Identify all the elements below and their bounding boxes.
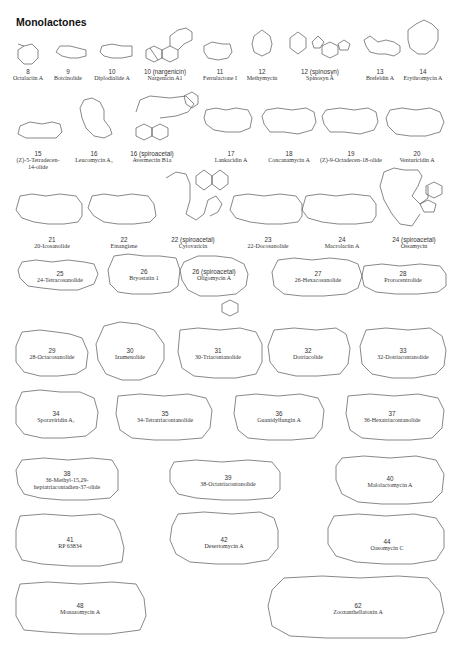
compound-number: 36 [257, 410, 301, 417]
compound-name-line1: (Z)-5-Tetradecen- [17, 157, 60, 164]
compound-name: 26-Hexacosanolide [295, 277, 341, 284]
compound-name: Monazomycin A [60, 609, 100, 616]
structure-24-spiroacetal [380, 168, 442, 226]
compound-label-33: 3332-Dotriacontanolide [377, 347, 428, 361]
structure-12-spinosyn [290, 32, 350, 58]
compound-name: Venturicidin A [399, 157, 434, 164]
compound-name: Izumenolide [115, 354, 145, 361]
compound-name: (Z)-9-Octadecen-18-olide [320, 157, 382, 164]
compound-label-15: 15(Z)-5-Tetradecen-14-olide [17, 150, 60, 171]
compound-number: 44 [371, 538, 404, 545]
compound-number: 16 (spiroacetal) [130, 150, 173, 157]
compound-name: Desertomycin A [204, 543, 243, 550]
compound-label-34: 34Sporaviridin A₁ [37, 410, 75, 424]
compound-label-35: 3534-Tetratriacontanolide [137, 410, 193, 424]
structure-17 [204, 108, 252, 132]
compound-number: 13 [366, 68, 394, 75]
compound-number: 26 [129, 268, 159, 275]
compound-name: Botcinolide [54, 75, 82, 82]
compound-name: RP 63834 [58, 543, 82, 550]
compound-name: Dotriacolide [293, 354, 323, 361]
compound-number: 40 [368, 475, 413, 482]
compound-name: Diplodialide A [94, 75, 130, 82]
compound-label-12-spinosyn: 12 (spinosyn)Spinosyn A [301, 68, 339, 82]
compound-number: 9 [54, 68, 82, 75]
compound-name: Prorocentrolide [384, 277, 421, 284]
compound-name: Octalactin A [13, 75, 43, 82]
compound-name: Concanamycin A [268, 157, 310, 164]
compound-label-14: 14Erythromycin A [404, 68, 443, 82]
compound-number: 24 [325, 236, 360, 243]
compound-name: Ossamycin [392, 243, 435, 250]
compound-name: 22-Docosanolide [248, 243, 289, 250]
structure-20 [386, 108, 444, 136]
compound-number: 31 [195, 347, 241, 354]
compound-label-10: 10Diplodialide A [94, 68, 130, 82]
compound-name: Sporaviridin A₁ [37, 417, 75, 424]
compound-name: 24-Tetracosanolide [37, 277, 83, 284]
compound-name: Leucomycin A₃ [75, 157, 113, 164]
compound-label-25: 2524-Tetracosanolide [37, 270, 83, 284]
compound-label-19: 19(Z)-9-Octadecen-18-olide [320, 150, 382, 164]
structure-14 [408, 20, 438, 54]
compound-name: Ferrulactone I [203, 75, 237, 82]
compound-number: 39 [200, 474, 255, 481]
compound-label-23: 2322-Docosanolide [248, 236, 289, 250]
compound-label-28: 28Prorocentrolide [384, 270, 421, 284]
compound-name: Lankacidin A [215, 157, 248, 164]
compound-label-24-spiroacetal: 24 (spiroacetal)Ossamycin [392, 236, 435, 250]
compound-name: 28-Octacosanolide [30, 354, 75, 361]
compound-number: 35 [137, 410, 193, 417]
compound-label-10-nargenicin: 10 (nargenicin)Nargenicin A1 [144, 68, 186, 82]
compound-label-12-methymycin: 12Methymycin [247, 68, 278, 82]
compound-label-41: 41RP 63834 [58, 536, 82, 550]
structure-8 [18, 44, 38, 64]
compound-number: 24 (spiroacetal) [392, 236, 435, 243]
compound-label-22: 22Etnangiene [111, 236, 138, 250]
compound-name: 38-Octatriacontanolide [200, 481, 255, 488]
compound-label-31: 3130-Triacontanolide [195, 347, 241, 361]
compound-number: 41 [58, 536, 82, 543]
compound-label-18: 18Concanamycin A [268, 150, 310, 164]
structure-18 [262, 108, 316, 134]
compound-label-22-spiroacetal: 22 (spiroacetal)Cytovaricin [171, 236, 214, 250]
compound-name: 30-Triacontanolide [195, 354, 241, 361]
structure-10-nargenicin [146, 28, 192, 62]
compound-label-42: 42Desertomycin A [204, 536, 243, 550]
compound-name-line1: 36-Methyl-15,29- [34, 477, 100, 484]
compound-label-40: 40Malolactomycin A [368, 475, 413, 489]
compound-name: Macrolactin A [325, 243, 360, 250]
compound-number: 25 [37, 270, 83, 277]
compound-number: 11 [203, 68, 237, 75]
compound-number: 12 [247, 68, 278, 75]
structure-22-spiroacetal [166, 170, 228, 220]
compound-name: Cytovaricin [171, 243, 214, 250]
compound-label-37: 3736-Hexatriacontanolide [364, 410, 421, 424]
compound-name: Zooxanthellatoxin A [333, 609, 383, 616]
compound-number: 30 [115, 347, 145, 354]
structure-16 [80, 98, 112, 138]
compound-name: 32-Dotriacontanolide [377, 354, 428, 361]
compound-number: 16 [75, 150, 113, 157]
compound-number: 12 (spinosyn) [301, 68, 339, 75]
structure-19 [322, 108, 378, 134]
compound-number: 37 [364, 410, 421, 417]
compound-name-line2: heptatriacontadien-37-olide [34, 484, 100, 491]
compound-name: 34-Tetratriacontanolide [137, 417, 193, 424]
compound-label-32: 32Dotriacolide [293, 347, 323, 361]
compound-number: 33 [377, 347, 428, 354]
compound-name: 36-Hexatriacontanolide [364, 417, 421, 424]
compound-name: Oasomycin C [371, 545, 404, 552]
compound-label-21: 2120-Icosanolide [34, 236, 70, 250]
compound-number: 29 [30, 347, 75, 354]
compound-name: Malolactomycin A [368, 482, 413, 489]
compound-label-17: 17Lankacidin A [215, 150, 248, 164]
compound-number: 10 (nargenicin) [144, 68, 186, 75]
compound-label-62: 62Zooxanthellatoxin A [333, 602, 383, 616]
compound-name: Brefeldin A [366, 75, 394, 82]
structure-9 [56, 46, 86, 58]
compound-label-39: 3938-Octatriacontanolide [200, 474, 255, 488]
structure-12-methymycin [252, 30, 272, 56]
structure-15 [18, 122, 62, 138]
compound-name: Avermectin B1a [130, 157, 173, 164]
